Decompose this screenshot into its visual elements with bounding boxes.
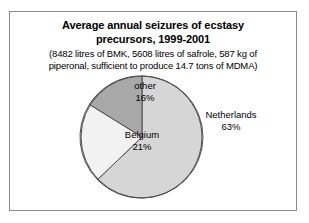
chart-subtitle-line-1: (8482 litres of BMK, 5608 litres of safr… [10, 48, 296, 60]
pie-label-other-value: 16% [114, 92, 176, 104]
pie-label-other: other 16% [114, 80, 176, 103]
chart-title-line-1: Average annual seizures of ecstasy [10, 18, 296, 32]
pie-label-netherlands-name: Netherlands [188, 109, 274, 121]
pie-label-netherlands: Netherlands 63% [188, 109, 274, 132]
chart-subtitle: (8482 litres of BMK, 5608 litres of safr… [10, 48, 296, 72]
pie-chart: other 16% Netherlands 63% Belgium 21% [10, 74, 297, 211]
pie-label-other-name: other [114, 80, 176, 92]
chart-subtitle-line-2: piperonal, sufficient to produce 14.7 to… [10, 60, 296, 72]
chart-title: Average annual seizures of ecstasy precu… [10, 18, 296, 46]
pie-label-netherlands-value: 63% [188, 121, 274, 133]
pie-graphic: other 16% Netherlands 63% Belgium 21% [80, 75, 204, 199]
pie-label-belgium: Belgium 21% [106, 129, 178, 152]
pie-label-belgium-name: Belgium [106, 129, 178, 141]
chart-title-line-2: precursors, 1999-2001 [10, 32, 296, 46]
chart-frame: Average annual seizures of ecstasy precu… [9, 11, 297, 211]
pie-label-belgium-value: 21% [106, 141, 178, 153]
